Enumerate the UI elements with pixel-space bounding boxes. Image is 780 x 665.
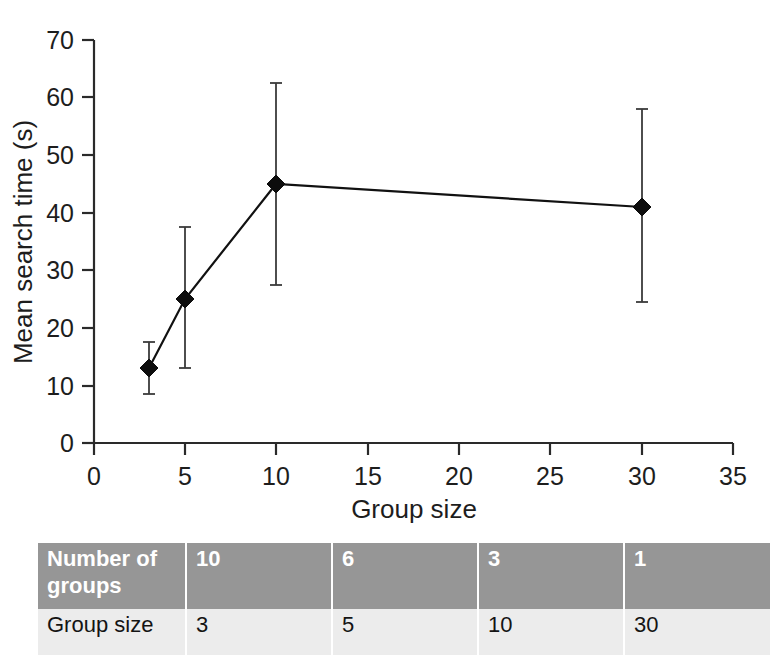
x-axis-title: Group size [351, 494, 477, 524]
x-tick-label: 20 [445, 462, 473, 490]
y-tick-label: 30 [46, 256, 74, 284]
table-row-number-of-groups: Number of groups 10 6 3 1 [38, 543, 770, 609]
table-cell: 30 [624, 609, 770, 655]
row-header-label: Number of groups [38, 543, 186, 609]
series-line [149, 184, 642, 368]
table-cell: 1 [624, 543, 770, 609]
line-chart: 70 60 50 40 30 20 10 0 [0, 0, 780, 525]
y-tick-label: 70 [46, 26, 74, 54]
x-tick-label: 30 [628, 462, 656, 490]
y-tick-label: 10 [46, 372, 74, 400]
data-point-marker[interactable] [633, 198, 651, 216]
y-axis-title: Mean search time (s) [8, 120, 38, 364]
x-axis-tick-labels: 0 5 10 15 20 25 30 35 [87, 462, 747, 490]
y-axis-tick-labels: 70 60 50 40 30 20 10 0 [46, 26, 74, 457]
summary-table-container: Number of groups 10 6 3 1 Group size 3 5… [38, 543, 770, 655]
table-cell: 6 [332, 543, 478, 609]
summary-table: Number of groups 10 6 3 1 Group size 3 5… [38, 543, 770, 655]
row-header-label: Group size [38, 609, 186, 655]
y-axis-ticks [82, 40, 94, 443]
x-tick-label: 35 [719, 462, 747, 490]
x-tick-label: 10 [262, 462, 290, 490]
y-tick-label: 40 [46, 199, 74, 227]
y-tick-label: 20 [46, 314, 74, 342]
table-cell: 10 [186, 543, 332, 609]
x-tick-label: 5 [178, 462, 192, 490]
y-tick-label: 60 [46, 83, 74, 111]
table-row-group-size: Group size 3 5 10 30 [38, 609, 770, 655]
table-cell: 3 [478, 543, 624, 609]
table-cell: 3 [186, 609, 332, 655]
figure-container: 70 60 50 40 30 20 10 0 [0, 0, 780, 665]
x-tick-label: 25 [536, 462, 564, 490]
y-tick-label: 0 [60, 429, 74, 457]
x-tick-label: 15 [354, 462, 382, 490]
x-tick-label: 0 [87, 462, 101, 490]
table-cell: 5 [332, 609, 478, 655]
error-bars [143, 83, 648, 394]
chart-svg: 70 60 50 40 30 20 10 0 [0, 0, 780, 525]
x-axis-ticks [94, 443, 733, 455]
data-markers [140, 175, 651, 377]
table-cell: 10 [478, 609, 624, 655]
data-point-marker[interactable] [140, 359, 158, 377]
y-tick-label: 50 [46, 141, 74, 169]
